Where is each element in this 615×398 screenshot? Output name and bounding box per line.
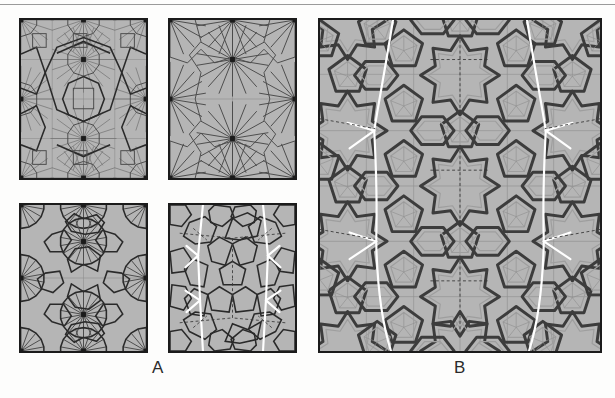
- top-horizontal-rule: [0, 4, 615, 5]
- panel-b-girih-pattern: [318, 18, 602, 353]
- tiling-a3-graphic: [21, 205, 146, 351]
- tiling-a4-graphic: [170, 205, 295, 351]
- tiling-a1-graphic: [21, 20, 146, 178]
- group-label-b: B: [430, 358, 490, 378]
- group-label-a: A: [128, 358, 188, 378]
- panel-a-bottom-left: [19, 203, 148, 353]
- panel-a-top-right: [168, 18, 297, 180]
- a4-white-defect-lines: [186, 205, 281, 351]
- tiling-a2-graphic: [170, 20, 295, 178]
- tiling-b-graphic: [320, 20, 600, 351]
- figure-root: A B: [0, 0, 615, 398]
- panel-a-bottom-right: [168, 203, 297, 353]
- panel-a-top-left: [19, 18, 148, 180]
